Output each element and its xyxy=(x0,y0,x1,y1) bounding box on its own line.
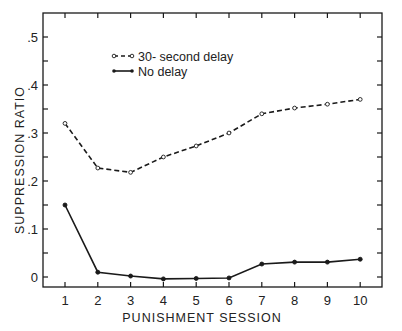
x-tick-label: 8 xyxy=(291,293,298,308)
data-point xyxy=(129,274,133,278)
x-tick-label: 1 xyxy=(61,293,68,308)
legend-label-30-second-delay: 30- second delay xyxy=(138,50,234,64)
data-point xyxy=(358,98,362,102)
data-point xyxy=(162,155,166,159)
data-point xyxy=(194,144,198,148)
series-30-second-delay xyxy=(63,98,362,175)
data-point xyxy=(63,203,67,207)
y-axis-title: SUPPRESSION RATIO xyxy=(13,86,27,234)
data-point xyxy=(96,270,100,274)
x-tick-label: 7 xyxy=(258,293,265,308)
x-tick-label: 3 xyxy=(127,293,134,308)
data-point xyxy=(63,122,67,126)
x-tick-label: 2 xyxy=(94,293,101,308)
data-point xyxy=(358,257,362,261)
data-point xyxy=(293,260,297,264)
data-point xyxy=(161,277,165,281)
y-tick-label: .2 xyxy=(27,174,38,189)
y-tick-label: .4 xyxy=(27,78,38,93)
legend-label-no-delay: No delay xyxy=(138,65,188,79)
x-tick-label: 4 xyxy=(160,293,167,308)
line-chart: 0.1.2.3.4.5 12345678910 30- second delay… xyxy=(0,0,402,331)
y-tick-label: .3 xyxy=(27,126,38,141)
data-point xyxy=(129,170,133,174)
x-tick-label: 6 xyxy=(225,293,232,308)
y-tick-label: .5 xyxy=(27,30,38,45)
data-point xyxy=(227,131,231,135)
x-tick-label: 10 xyxy=(353,293,367,308)
y-tick-label: .1 xyxy=(27,222,38,237)
data-point xyxy=(293,106,297,110)
data-point xyxy=(260,112,264,116)
series-no-delay xyxy=(63,203,362,281)
y-tick-label: 0 xyxy=(31,270,38,285)
x-axis-title: PUNISHMENT SESSION xyxy=(122,311,281,325)
legend-item-30-second-delay: 30- second delay xyxy=(112,50,234,64)
x-tick-label: 9 xyxy=(324,293,331,308)
data-point xyxy=(326,102,330,106)
data-series xyxy=(63,98,362,281)
legend-item-no-delay: No delay xyxy=(112,65,188,79)
data-point xyxy=(260,262,264,266)
x-tick-label: 5 xyxy=(193,293,200,308)
data-point xyxy=(194,276,198,280)
data-point xyxy=(227,276,231,280)
data-point xyxy=(325,260,329,264)
y-axis-ticks: 0.1.2.3.4.5 xyxy=(27,30,382,285)
data-point xyxy=(96,166,100,170)
legend: 30- second delay No delay xyxy=(112,50,234,79)
